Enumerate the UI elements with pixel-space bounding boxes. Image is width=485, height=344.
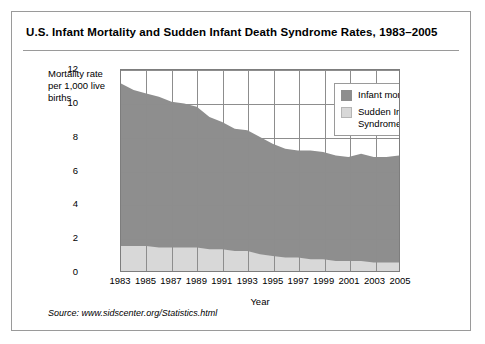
gridline-horizontal (121, 138, 399, 139)
legend-item-infant-mortality: Infant mortality rate (341, 89, 400, 101)
page-title: U.S. Infant Mortality and Sudden Infant … (26, 26, 438, 38)
x-axis-title: Year (120, 296, 400, 307)
gridline-vertical (248, 70, 249, 271)
y-tick-label: 0 (58, 266, 78, 277)
gridline-horizontal (121, 239, 399, 240)
gridline-horizontal (121, 172, 399, 173)
gridline-horizontal (121, 70, 399, 71)
title-divider (23, 50, 459, 51)
gridline-vertical (197, 70, 198, 271)
legend-swatch-sids (341, 107, 352, 118)
gridline-vertical (146, 70, 147, 271)
gridline-vertical (223, 70, 224, 271)
y-tick-label: 10 (58, 97, 78, 108)
plot-area: Infant mortality rate Sudden Infant Deat… (120, 69, 400, 272)
legend-item-sids: Sudden Infant Death Syndrome rate (341, 106, 400, 129)
gridline-vertical (172, 70, 173, 271)
source-note: Source: www.sidscenter.org/Statistics.ht… (48, 308, 217, 318)
chart-card: U.S. Infant Mortality and Sudden Infant … (11, 11, 471, 331)
gridline-horizontal (121, 205, 399, 206)
y-tick-label: 6 (58, 165, 78, 176)
gridline-vertical (299, 70, 300, 271)
legend-label-sids: Sudden Infant Death Syndrome rate (358, 106, 400, 129)
y-tick-label: 2 (58, 232, 78, 243)
y-tick-label: 4 (58, 198, 78, 209)
y-tick-label: 8 (58, 131, 78, 142)
y-tick-label: 12 (58, 63, 78, 74)
x-tick-label: 2005 (385, 275, 415, 286)
gridline-vertical (274, 70, 275, 271)
gridline-vertical (325, 70, 326, 271)
chart-legend: Infant mortality rate Sudden Infant Deat… (334, 83, 400, 136)
legend-swatch-infant-mortality (341, 90, 352, 101)
legend-label-infant-mortality: Infant mortality rate (358, 89, 400, 101)
